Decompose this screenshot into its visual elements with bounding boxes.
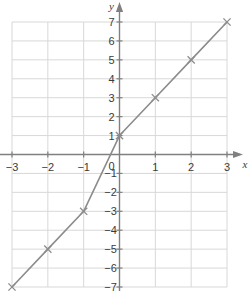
y-tick-label-pos-2: 5 [108, 54, 114, 66]
x-tick-label-4: 1 [152, 161, 158, 173]
x-axis-label: x [242, 158, 248, 170]
y-tick-label-neg-0: −1 [104, 167, 117, 179]
y-tick-label-pos-6: 1 [108, 130, 114, 142]
x-tick-label-5: 2 [188, 161, 194, 173]
y-tick-label-neg-5: −6 [104, 262, 117, 274]
y-tick-label-pos-1: 6 [108, 35, 114, 47]
x-tick-label-0: −3 [6, 161, 19, 173]
x-tick-label-6: 3 [224, 161, 230, 173]
y-tick-label-neg-6: −7 [104, 281, 117, 293]
y-tick-label-pos-4: 3 [108, 92, 114, 104]
x-axis-arrowhead [233, 151, 243, 158]
y-tick-label-pos-5: 2 [108, 111, 114, 123]
y-tick-label-pos-0: 7 [108, 16, 114, 28]
coordinate-plane-figure: xy−3−2−101237654321−1−2−3−4−5−6−7 [0, 0, 250, 295]
y-tick-label-neg-3: −4 [104, 224, 117, 236]
y-tick-label-neg-2: −3 [104, 205, 117, 217]
y-axis-arrowhead [116, 2, 123, 12]
y-tick-label-pos-3: 4 [108, 73, 114, 85]
y-tick-label-neg-4: −5 [104, 243, 117, 255]
y-tick-label-neg-1: −2 [104, 186, 117, 198]
x-tick-label-2: −1 [77, 161, 90, 173]
x-tick-label-1: −2 [42, 161, 55, 173]
graph-canvas: xy−3−2−101237654321−1−2−3−4−5−6−7 [0, 0, 250, 295]
y-axis-label: y [108, 0, 114, 12]
